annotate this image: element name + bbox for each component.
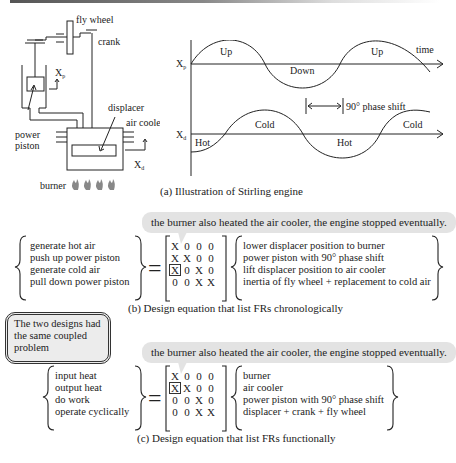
xd-label: Xd	[134, 159, 144, 171]
hot-label: Hot	[195, 137, 210, 148]
equals-sign-c: =	[148, 385, 162, 412]
dp-item: lift displacer position to air cooler	[243, 264, 431, 276]
fr-list-c: input heat output heat do work operate c…	[55, 370, 129, 418]
coupled-cell: X	[169, 264, 181, 276]
burner-flames-icon	[72, 179, 115, 190]
fr-item: push up power piston	[30, 252, 129, 264]
crank-label: crank	[98, 36, 120, 47]
displacer-label: displacer	[108, 102, 145, 113]
coupled-cell: X	[169, 382, 181, 394]
power-piston-label-2: piston	[15, 140, 39, 151]
fr-item: pull down power piston	[30, 276, 129, 288]
design-matrix-b: X000 XX00 X0X0 00XX	[169, 240, 217, 288]
design-matrix-c: X000 XX00 00X0 00XX	[169, 370, 217, 418]
fly-wheel-label: fly wheel	[76, 14, 114, 25]
wave-xd-label: Xd	[176, 129, 186, 141]
down-label: Down	[290, 65, 314, 76]
wave-xp-label: Xp	[176, 58, 186, 70]
fr-item: operate cyclically	[55, 406, 129, 418]
dp-list-b: lower displacer position to burner power…	[243, 240, 431, 288]
dp-item: power piston with 90° phase shift	[243, 394, 384, 406]
burner-label: burner	[40, 180, 67, 191]
caption-a: (a) Illustration of Stirling engine	[160, 185, 303, 197]
dp-item: burner	[243, 370, 384, 382]
dp-item: air cooler	[243, 382, 384, 394]
fr-item: generate cold air	[30, 264, 129, 276]
cold-label: Cold	[255, 119, 274, 130]
coupled-problem-note: The two designs had the same coupled pro…	[5, 312, 111, 364]
dp-item: lower displacer position to burner	[243, 240, 431, 252]
fr-item: input heat	[55, 370, 129, 382]
caption-b: (b) Design equation that list FRs chrono…	[128, 302, 343, 314]
dp-item: displacer + crank + fly wheel	[243, 406, 384, 418]
fr-list-b: generate hot air push up power piston ge…	[30, 240, 129, 288]
caption-c: (c) Design equation that list FRs functi…	[137, 432, 336, 444]
cold-label-2: Cold	[403, 119, 422, 130]
up-label-2: Up	[371, 46, 383, 57]
fr-item: output heat	[55, 382, 129, 394]
time-label: time	[416, 44, 434, 55]
phase-shift-label: 90° phase shift	[346, 101, 406, 112]
xp-label: Xp	[55, 67, 65, 79]
equals-sign-b: =	[148, 255, 162, 282]
up-label: Up	[220, 46, 232, 57]
dp-list-c: burner air cooler power piston with 90° …	[243, 370, 384, 418]
stirling-engine-diagram: fly wheel crank Xp power piston displace…	[0, 0, 160, 200]
dp-item: power piston with 90° phase shift	[243, 252, 431, 264]
fr-item: do work	[55, 394, 129, 406]
phase-waveform-chart: Xp Xd time Up Down Up Hot Cold Hot Cold …	[150, 40, 452, 190]
dp-item: inertia of fly wheel + replacement to co…	[243, 276, 431, 288]
fr-item: generate hot air	[30, 240, 129, 252]
power-piston-label: power	[15, 129, 41, 140]
hot-label-2: Hot	[337, 137, 352, 148]
fly-wheel-icon	[67, 21, 73, 54]
